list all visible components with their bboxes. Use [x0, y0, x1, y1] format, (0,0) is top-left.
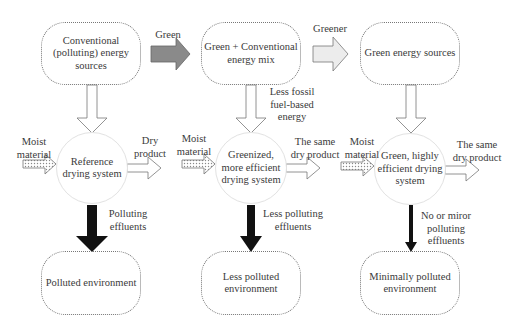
- reference-drying-system: Reference drying system: [56, 132, 128, 204]
- moist-material-label-3: Moist material: [342, 136, 382, 161]
- greener-transition-label: Greener: [308, 23, 352, 36]
- energy-down-arrow-3: [396, 85, 426, 133]
- effluent-arrow-3: [405, 205, 417, 252]
- dry-product-label-2: The same dry product: [285, 136, 345, 161]
- dry-product-label-3: The same dry product: [447, 139, 507, 164]
- energy-down-arrow-1: [77, 85, 107, 133]
- dry-product-label-1: Dry product: [132, 135, 168, 160]
- minor-polluting-effluents-label: No or miror polluting effluents: [419, 210, 473, 248]
- moist-material-label-2: Moist material: [173, 133, 215, 158]
- polluting-effluents-label: Polluting effluents: [103, 208, 153, 233]
- green-energy-sources-box: Green energy sources: [360, 22, 460, 85]
- less-fossil-energy-label: Less fossil fuel-based energy: [262, 86, 322, 124]
- conventional-energy-sources-box: Conventional (polluting) energy sources: [41, 22, 141, 85]
- energy-mix-box: Green + Conventional energy mix: [201, 22, 301, 85]
- polluted-environment-box: Polluted environment: [41, 251, 141, 315]
- greener-transition-arrow: [313, 37, 348, 71]
- greenized-drying-system: Greenized, more efficient drying system: [215, 132, 287, 204]
- green-drying-system: Green, highly efficient drying system: [374, 133, 446, 205]
- dry-output-arrow-1: [127, 157, 161, 179]
- green-transition-arrow: [151, 38, 190, 70]
- minimally-polluted-environment-box: Minimally polluted environment: [360, 251, 460, 315]
- green-transition-label: Green: [148, 29, 188, 42]
- less-polluting-effluents-label: Less polluting effluents: [257, 208, 329, 233]
- moist-material-label-1: Moist material: [14, 136, 54, 161]
- less-polluted-environment-box: Less polluted environment: [201, 251, 301, 315]
